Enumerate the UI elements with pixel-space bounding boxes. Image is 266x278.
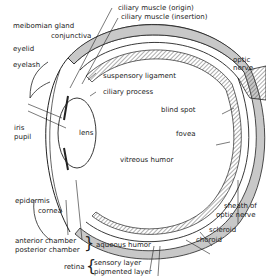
label-ciliary-muscle-insertion: ciliary muscle (insertion) [121, 13, 208, 21]
label-sensory-layer: sensory layer [94, 259, 141, 267]
label-scleroid: scleroid [209, 226, 236, 234]
label-choroid: choroid [196, 236, 222, 244]
label-optic-nerve-line1: optic [233, 56, 250, 64]
label-pupil: pupil [14, 133, 31, 141]
label-optic-nerve-line2: nerve [233, 64, 253, 72]
label-cornea: cornea [38, 207, 62, 215]
label-anterior-chamber: anterior chamber [15, 237, 76, 245]
label-sheath-line2: optic nerve [216, 211, 256, 219]
label-posterior-chamber: posterior chamber [15, 246, 80, 254]
label-pigmented-layer: pigmented layer [94, 268, 152, 276]
label-ciliary-muscle-origin: ciliary muscle (origin) [118, 4, 194, 12]
eye-diagram: ciliary muscle (origin) ciliary muscle (… [0, 0, 266, 278]
label-epidermis: epidermis [15, 197, 50, 205]
label-eyelid: eyelid [13, 45, 34, 53]
label-aqueous-humor: aqueous humor [96, 241, 151, 249]
label-conjunctiva: conjunctiva [51, 32, 91, 40]
label-fovea: fovea [176, 130, 196, 138]
label-vitreous-humor: vitreous humor [120, 156, 173, 164]
label-blind-spot: blind spot [161, 106, 196, 114]
label-ciliary-process: ciliary process [103, 88, 153, 96]
label-iris: iris [14, 124, 24, 132]
label-retina: retina [64, 263, 84, 271]
label-sheath-line1: sheath of [224, 202, 257, 210]
label-eyelash: eyelash [13, 61, 40, 69]
label-meibomian-gland: meibomian gland [13, 22, 74, 30]
label-suspensory-ligament: suspensory ligament [103, 72, 176, 80]
label-lens: lens [79, 129, 93, 137]
brace-aqueous: } [84, 234, 94, 252]
